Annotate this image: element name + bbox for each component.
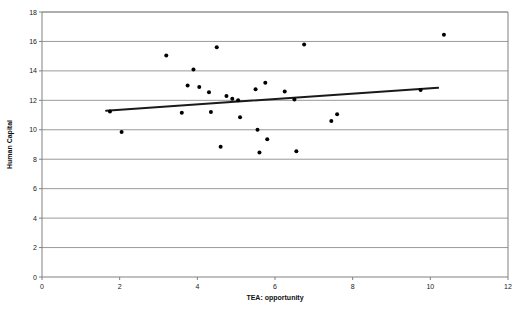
data-point[interactable] — [292, 98, 296, 102]
data-point[interactable] — [186, 84, 190, 88]
y-tick-label-16: 16 — [29, 38, 37, 45]
data-point[interactable] — [219, 145, 223, 149]
data-point[interactable] — [419, 88, 423, 92]
x-tick-label-8: 8 — [351, 283, 355, 290]
y-tick-label-8: 8 — [33, 156, 37, 163]
data-point[interactable] — [207, 90, 211, 94]
axes-group — [42, 12, 508, 277]
data-point[interactable] — [197, 85, 201, 89]
scatter-chart: 024681012141618024681012TEA: opportunity… — [0, 0, 522, 310]
data-point[interactable] — [108, 109, 112, 113]
y-tick-label-18: 18 — [29, 9, 37, 16]
data-point[interactable] — [302, 42, 306, 46]
data-point[interactable] — [263, 81, 267, 85]
y-tick-label-6: 6 — [33, 185, 37, 192]
data-point[interactable] — [230, 97, 234, 101]
data-point[interactable] — [256, 128, 260, 132]
x-axis-title: TEA: opportunity — [246, 294, 303, 302]
data-point[interactable] — [215, 45, 219, 49]
data-point[interactable] — [191, 67, 195, 71]
x-tick-label-6: 6 — [273, 283, 277, 290]
x-tick-label-0: 0 — [40, 283, 44, 290]
y-tick-label-2: 2 — [33, 244, 37, 251]
data-point[interactable] — [238, 115, 242, 119]
trendline — [106, 88, 438, 111]
data-point[interactable] — [120, 130, 124, 134]
data-point[interactable] — [257, 151, 261, 155]
x-tick-label-2: 2 — [118, 283, 122, 290]
x-tick-label-4: 4 — [195, 283, 199, 290]
data-point[interactable] — [224, 94, 228, 98]
chart-canvas: 024681012141618024681012TEA: opportunity… — [0, 0, 522, 310]
data-point[interactable] — [209, 110, 213, 114]
data-points-group — [108, 33, 446, 155]
y-axis-title: Human Capital — [6, 120, 14, 169]
y-tick-label-14: 14 — [29, 67, 37, 74]
data-point[interactable] — [329, 119, 333, 123]
gridlines-group — [42, 12, 508, 248]
data-point[interactable] — [164, 53, 168, 57]
data-point[interactable] — [236, 98, 240, 102]
x-tick-label-10: 10 — [426, 283, 434, 290]
y-tick-label-12: 12 — [29, 97, 37, 104]
data-point[interactable] — [294, 149, 298, 153]
data-point[interactable] — [265, 137, 269, 141]
data-point[interactable] — [442, 33, 446, 37]
x-ticks-group: 024681012 — [40, 277, 512, 290]
y-ticks-group: 024681012141618 — [29, 9, 42, 281]
x-tick-label-12: 12 — [504, 283, 512, 290]
data-point[interactable] — [283, 90, 287, 94]
data-point[interactable] — [180, 111, 184, 115]
data-point[interactable] — [254, 87, 258, 91]
data-point[interactable] — [335, 112, 339, 116]
y-tick-label-4: 4 — [33, 215, 37, 222]
y-tick-label-10: 10 — [29, 126, 37, 133]
y-tick-label-0: 0 — [33, 274, 37, 281]
